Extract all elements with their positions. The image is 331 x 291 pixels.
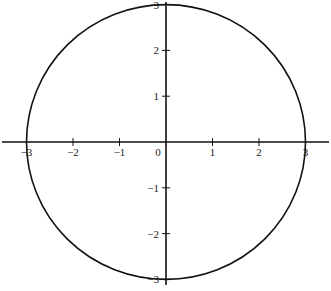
circle-plot: −3−2−10123−3−2−1123: [0, 0, 331, 291]
y-tick-label: −2: [147, 228, 159, 240]
x-tick-label: −2: [67, 146, 79, 158]
y-tick-label: 2: [154, 44, 160, 56]
x-tick-label: −1: [114, 146, 126, 158]
y-tick-label: 1: [154, 90, 160, 102]
axes: [2, 2, 329, 285]
x-tick-label: 2: [256, 146, 262, 158]
x-tick-label: 1: [210, 146, 216, 158]
y-tick-label: −1: [147, 182, 159, 194]
x-tick-label: 0: [155, 146, 161, 158]
